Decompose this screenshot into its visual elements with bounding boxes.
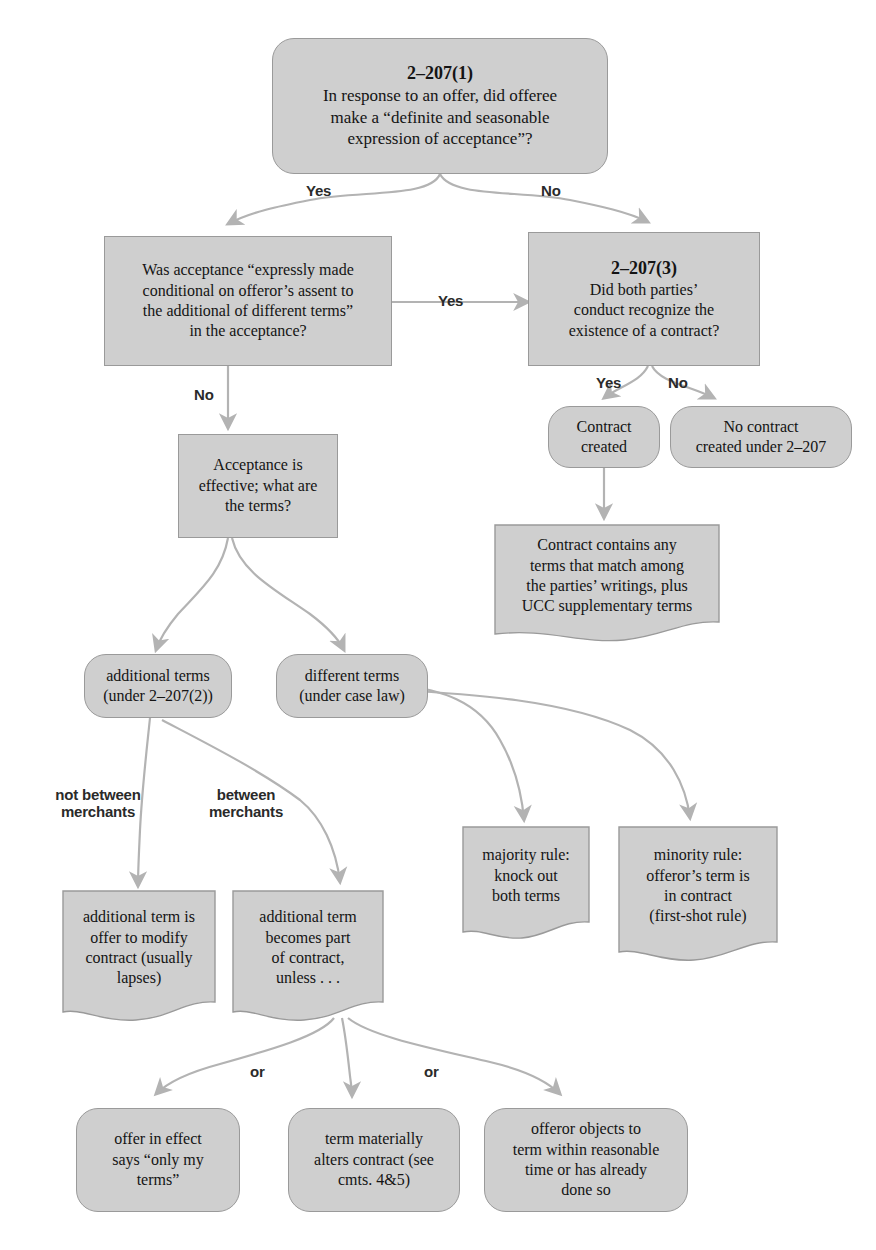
node-header: 2–207(3) [569,257,720,280]
node-header: 2–207(1) [323,62,557,85]
node-text: different terms (under case law) [285,666,419,707]
node-text: Was acceptance “expressly made condition… [113,260,383,342]
node-text: offer in effect says “only my terms” [85,1129,231,1190]
node-additional-term-offer-to-modify[interactable]: additional term is offer to modify contr… [62,890,216,1026]
edge-label-q1-no: No [541,182,561,199]
node-question-2-207-3[interactable]: 2–207(3) Did both parties’ conduct recog… [528,232,760,366]
edge-label-q2-no: No [194,386,214,403]
node-contract-created[interactable]: Contract created [548,406,660,468]
node-text: additional terms (under 2–207(2)) [93,666,223,707]
node-text: majority rule: knock out both terms [462,845,590,906]
node-additional-term-becomes-part[interactable]: additional term becomes part of contract… [232,890,384,1026]
node-acceptance-effective[interactable]: Acceptance is effective; what are the te… [178,434,338,538]
edge-label-q2-yes: Yes [438,292,463,309]
node-text: additional term is offer to modify contr… [62,907,216,989]
node-text: term materially alters contract (see cmt… [297,1129,451,1190]
node-no-contract-created[interactable]: No contract created under 2–207 [670,406,852,468]
edge-label-between-merchants: between merchants [186,786,306,821]
node-offer-only-my-terms[interactable]: offer in effect says “only my terms” [76,1108,240,1212]
node-text: minority rule: offeror’s term is in cont… [618,845,778,927]
edge-label-or-right: or [424,1063,439,1080]
node-term-materially-alters[interactable]: term materially alters contract (see cmt… [288,1108,460,1212]
node-different-terms[interactable]: different terms (under case law) [276,654,428,718]
edge-label-q3-no: No [668,374,688,391]
node-text: Contract created [557,417,651,458]
edge-label-q3-yes: Yes [596,374,621,391]
node-text: No contract created under 2–207 [679,417,843,458]
node-text: Contract contains any terms that match a… [494,535,720,617]
node-text: additional term becomes part of contract… [232,907,384,989]
node-text: offeror objects to term within reasonabl… [493,1119,679,1201]
node-minority-rule[interactable]: minority rule: offeror’s term is in cont… [618,826,778,966]
node-question-expressly-conditional[interactable]: Was acceptance “expressly made condition… [104,236,392,366]
node-text: Did both parties’ conduct recognize the … [569,280,720,341]
node-offeror-objects[interactable]: offeror objects to term within reasonabl… [484,1108,688,1212]
node-additional-terms[interactable]: additional terms (under 2–207(2)) [84,654,232,718]
node-text: In response to an offer, did offeree mak… [323,85,557,150]
flowchart-canvas: 2–207(1) In response to an offer, did of… [0,0,876,1250]
edge-label-q1-yes: Yes [306,182,331,199]
node-majority-rule[interactable]: majority rule: knock out both terms [462,826,590,944]
edge-label-not-between-merchants: not between merchants [32,786,164,821]
node-question-2-207-1[interactable]: 2–207(1) In response to an offer, did of… [272,38,608,174]
node-contract-contains-terms[interactable]: Contract contains any terms that match a… [494,524,720,646]
edge-label-or-left: or [250,1063,265,1080]
node-text: Acceptance is effective; what are the te… [187,455,329,516]
